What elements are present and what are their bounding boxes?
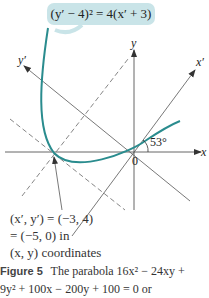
vertex-note-line3: (x, y) coordinates	[10, 244, 101, 261]
caption-line1: The parabola 16x² − 24xy +	[51, 264, 185, 278]
y-axis-label: y	[131, 36, 136, 51]
figure-caption: Figure 5 The parabola 16x² − 24xy + 9y² …	[0, 262, 209, 298]
x-prime-label: x′	[196, 55, 204, 70]
caption-line2: 9y² + 100x − 200y + 100 = 0 or	[0, 280, 209, 298]
caption-figure-label: Figure 5	[0, 265, 43, 277]
origin-label: 0	[132, 154, 138, 169]
x-axis-label: x	[201, 145, 206, 160]
dashed-x-double-prime	[22, 59, 128, 196]
y-prime-label: y′	[18, 53, 26, 68]
vertex-pointer	[54, 157, 62, 210]
vertex-note-line1: (x′, y′) = (−3, 4)	[10, 210, 93, 227]
callout-tail	[55, 25, 82, 32]
vertex-note-line2: = (−5, 0) in	[10, 227, 69, 244]
dashed-y-double-prime	[10, 119, 125, 210]
equation-callout: (y′ − 4)² = 4(x′ + 3)	[47, 3, 155, 25]
angle-label: 53°	[150, 135, 167, 150]
